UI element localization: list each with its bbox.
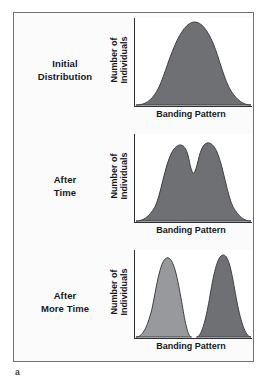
y-axis-label-panel-1: Number ofIndividuals <box>109 0 129 18</box>
chart-after-time: Number ofIndividuals Banding Pattern <box>110 134 252 240</box>
stage-label-after-more-time: AfterMore Time <box>16 245 114 361</box>
panel-initial-distribution: InitialDistribution Number ofIndividuals… <box>14 13 253 129</box>
plot-area-panel-1 <box>134 18 252 107</box>
stage-label-initial-distribution: InitialDistribution <box>16 13 114 129</box>
distribution-curve-panel-2 <box>135 134 252 222</box>
y-axis-label-panel-3: Number ofIndividuals <box>109 166 129 250</box>
panel-after-time: AfterTime Number ofIndividuals Banding P… <box>14 129 253 245</box>
y-axis-label-text-panel-3: Number ofIndividuals <box>109 250 130 334</box>
distribution-curves-panel-3 <box>135 250 252 338</box>
chart-after-more-time: Number ofIndividuals Banding Pattern <box>110 250 252 356</box>
chart-initial-distribution: Number ofIndividuals Banding Pattern <box>110 18 252 124</box>
panel-after-more-time: AfterMore Time Number ofIndividuals Band… <box>14 245 253 361</box>
y-axis-label-panel-2: Number ofIndividuals <box>109 50 129 134</box>
curve-initial-population <box>136 22 251 105</box>
figure-frame: InitialDistribution Number ofIndividuals… <box>13 12 254 362</box>
distribution-curve-panel-1 <box>135 18 252 106</box>
plot-area-panel-2 <box>134 134 252 223</box>
plot-area-panel-3 <box>134 250 252 339</box>
curve-bimodal-population <box>136 143 251 221</box>
x-axis-label-panel-2: Banding Pattern <box>130 225 252 235</box>
curve-right-population <box>196 255 251 337</box>
x-axis-label-panel-1: Banding Pattern <box>130 109 252 119</box>
figure-root: InitialDistribution Number ofIndividuals… <box>0 0 270 383</box>
stage-label-after-time: AfterTime <box>16 129 114 245</box>
figure-part-label: a <box>15 367 20 377</box>
x-axis-label-panel-3: Banding Pattern <box>130 341 252 351</box>
curve-left-population <box>136 258 192 337</box>
